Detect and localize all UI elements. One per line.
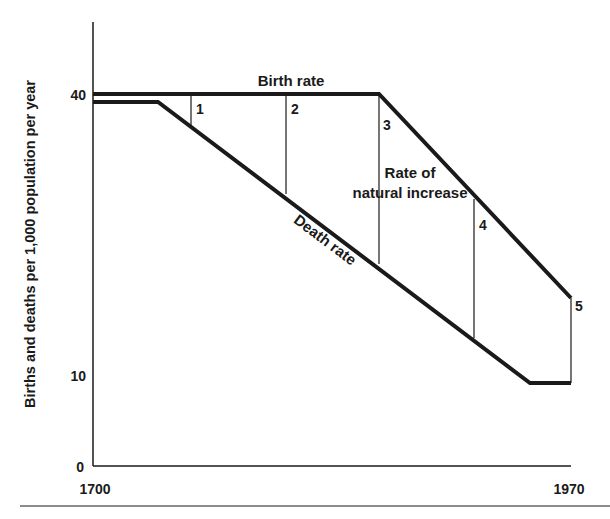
stage-label-3: 3: [383, 117, 391, 133]
stage-label-5: 5: [575, 298, 583, 314]
y-tick-0: 0: [76, 459, 84, 475]
stage-label-2: 2: [291, 101, 299, 117]
demographic-transition-chart: Births and deaths per 1,000 population p…: [0, 0, 610, 519]
y-tick-10: 10: [70, 368, 86, 384]
y-tick-40: 40: [70, 87, 86, 103]
natural-increase-label-line1: Rate of: [385, 164, 437, 181]
natural-increase-label-line2: natural increase: [352, 184, 467, 201]
stage-label-1: 1: [196, 101, 204, 117]
stage-label-4: 4: [479, 217, 487, 233]
x-tick-1700: 1700: [79, 481, 110, 497]
death-rate-label: Death rate: [291, 211, 360, 269]
birth-rate-label: Birth rate: [258, 72, 325, 89]
y-axis-title: Births and deaths per 1,000 population p…: [22, 80, 38, 408]
x-tick-1970: 1970: [553, 481, 584, 497]
birth-rate-line: [93, 94, 571, 298]
